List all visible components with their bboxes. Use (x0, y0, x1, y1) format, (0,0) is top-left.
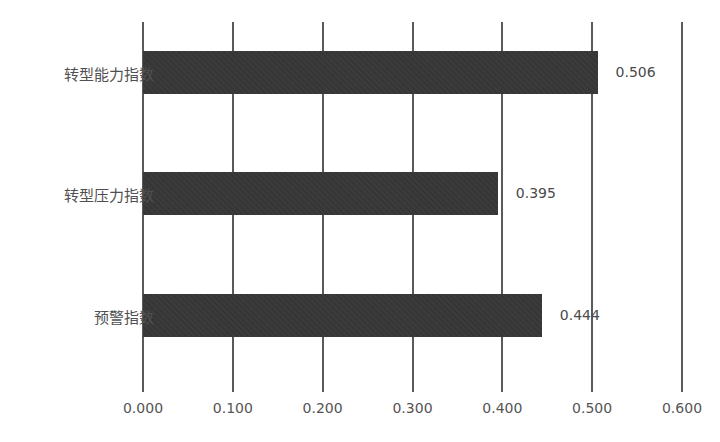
bar (143, 294, 542, 337)
bar (143, 51, 598, 94)
bar (143, 172, 498, 215)
value-label: 0.444 (560, 307, 600, 323)
category-label: 转型能力指数 (64, 63, 154, 84)
x-tick-label: 0.200 (303, 400, 343, 416)
x-tick-label: 0.100 (213, 400, 253, 416)
value-label: 0.506 (616, 64, 656, 80)
x-tick-label: 0.300 (392, 400, 432, 416)
bar-chart: 转型能力指数0.506转型压力指数0.395预警指数0.444 0.0000.1… (0, 0, 720, 442)
x-tick-label: 0.600 (662, 400, 702, 416)
x-tick-label: 0.000 (123, 400, 163, 416)
x-tick-label: 0.500 (572, 400, 612, 416)
category-label: 转型压力指数 (64, 184, 154, 205)
category-label: 预警指数 (94, 306, 154, 327)
value-label: 0.395 (516, 185, 556, 201)
x-tick-label: 0.400 (482, 400, 522, 416)
gridline (681, 22, 683, 392)
